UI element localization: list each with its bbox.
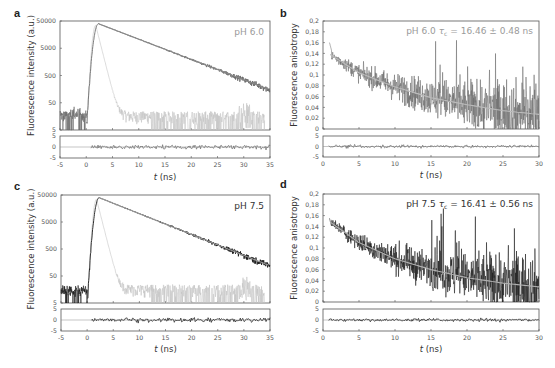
y-tick-label: 0,18 (305, 201, 319, 208)
residual-y-tick-label: 5 (52, 132, 56, 139)
y-tick-label: 0,06 (305, 93, 319, 100)
y-tick-label: 50000 (37, 191, 57, 198)
x-tick-label: 30 (535, 160, 543, 167)
x-tick-label: 20 (463, 334, 471, 341)
x-tick-label: 0 (84, 161, 88, 168)
panel-d-anisotropy-ph75: 05101520253000,020,040,060,080,10,120,14… (289, 190, 543, 354)
y-axis-label: Fluorescence intensity (a.u.) (26, 15, 36, 136)
residual-y-tick-label: 0 (53, 316, 57, 323)
x-tick-label: 35 (266, 161, 274, 168)
y-tick-label: 0,06 (305, 266, 319, 273)
residual-y-tick-label: -5 (51, 327, 57, 334)
x-tick-label: 15 (162, 334, 170, 341)
y-tick-label: 0,02 (305, 287, 319, 294)
x-tick-label: 10 (391, 160, 399, 167)
x-tick-label: 20 (463, 160, 471, 167)
y-tick-label: 0,1 (309, 71, 319, 78)
x-tick-label: 25 (499, 160, 507, 167)
y-tick-label: 0,16 (305, 39, 319, 46)
ph-annotation: pH 6.0 (234, 27, 264, 37)
y-tick-label: 0,1 (309, 244, 319, 251)
irf-trace (88, 199, 265, 303)
y-axis-label: Fluorescence anisotropy (289, 196, 299, 300)
y-tick-label: 50 (49, 272, 57, 279)
y-tick-label: 0,02 (305, 114, 319, 121)
residual-trace (91, 145, 270, 150)
residual-y-tick-label: -5 (50, 154, 56, 161)
residual-y-tick-label: 5 (53, 305, 57, 312)
y-tick-label: 5000 (41, 218, 57, 225)
panel-label-a: a (14, 7, 21, 19)
y-tick-label: 0 (315, 125, 319, 132)
x-tick-label: 15 (427, 160, 435, 167)
y-tick-label: 0,14 (305, 50, 319, 57)
y-tick-label: 0,12 (305, 233, 319, 240)
rotational-correlation-annotation: pH 7.5 τc = 16.41 ± 0.56 ns (406, 199, 533, 210)
plot-frame (323, 194, 539, 302)
residual-y-tick-label: 0 (315, 316, 319, 323)
y-tick-label: 50 (48, 99, 56, 106)
x-tick-label: 30 (240, 334, 248, 341)
decay-data-trace (87, 24, 270, 124)
residual-y-tick-label: 5 (315, 132, 319, 139)
panel-a-intensity-decay-ph6: -50510152025303555050050005000050-5t (ns… (26, 15, 274, 182)
x-tick-label: 5 (111, 334, 115, 341)
panel-label-b: b (280, 7, 287, 19)
panel-label-d: d (280, 178, 287, 190)
x-tick-label: 30 (535, 334, 543, 341)
figure: a b c d -5051015202530355505005000500005… (0, 0, 555, 368)
baseline-noise-trace (61, 285, 88, 303)
residual-y-tick-label: 5 (315, 305, 319, 312)
x-tick-label: 25 (214, 161, 222, 168)
x-tick-label: 25 (499, 334, 507, 341)
x-tick-label: 5 (111, 161, 115, 168)
x-tick-label: 0 (85, 334, 89, 341)
ph-annotation: pH 7.5 (234, 201, 264, 211)
residual-trace (92, 318, 271, 324)
y-tick-label: 0,08 (305, 82, 319, 89)
y-tick-label: 500 (45, 245, 57, 252)
anisotropy-data-trace (330, 40, 539, 129)
residual-y-tick-label: -5 (313, 153, 319, 160)
x-tick-label: 35 (266, 334, 274, 341)
x-tick-label: 10 (135, 334, 143, 341)
y-tick-label: 0,14 (305, 223, 319, 230)
x-axis-label: t (ns) (154, 172, 177, 182)
rotational-correlation-annotation: pH 6.0 τc = 16.46 ± 0.48 ns (406, 26, 533, 37)
x-tick-label: 5 (357, 160, 361, 167)
x-axis-label: t (ns) (420, 170, 443, 180)
y-tick-label: 0 (315, 298, 319, 305)
y-axis-label: Fluorescence intensity (a.u.) (26, 189, 36, 310)
y-tick-label: 0,2 (309, 17, 319, 24)
y-axis-label: Fluorescence anisotropy (289, 23, 299, 127)
y-tick-label: 50000 (36, 17, 56, 24)
x-tick-label: 15 (427, 334, 435, 341)
x-tick-label: -5 (57, 161, 63, 168)
x-tick-label: 0 (321, 160, 325, 167)
y-tick-label: 500 (44, 72, 56, 79)
x-tick-label: 0 (321, 334, 325, 341)
y-tick-label: 0,04 (305, 104, 319, 111)
x-tick-label: 5 (357, 334, 361, 341)
y-tick-label: 0,16 (305, 212, 319, 219)
baseline-noise-trace (60, 107, 87, 130)
y-tick-label: 0,18 (305, 28, 319, 35)
y-tick-label: 0,08 (305, 255, 319, 262)
x-tick-label: -5 (58, 334, 64, 341)
anisotropy-data-trace (330, 209, 539, 302)
residual-y-tick-label: 0 (52, 143, 56, 150)
x-tick-label: 25 (214, 334, 222, 341)
x-tick-label: 10 (135, 161, 143, 168)
x-tick-label: 20 (188, 334, 196, 341)
residual-y-tick-label: 0 (315, 143, 319, 150)
x-axis-label: t (ns) (154, 344, 177, 354)
y-tick-label: 0,12 (305, 60, 319, 67)
x-tick-label: 20 (187, 161, 195, 168)
y-tick-label: 0,2 (309, 190, 319, 197)
residual-y-tick-label: -5 (313, 327, 319, 334)
panel-label-c: c (14, 180, 20, 192)
y-tick-label: 5000 (40, 44, 56, 51)
panel-b-anisotropy-ph6: 05101520253000,020,040,060,080,10,120,14… (289, 17, 543, 180)
x-tick-label: 10 (391, 334, 399, 341)
y-tick-label: 0,04 (305, 277, 319, 284)
